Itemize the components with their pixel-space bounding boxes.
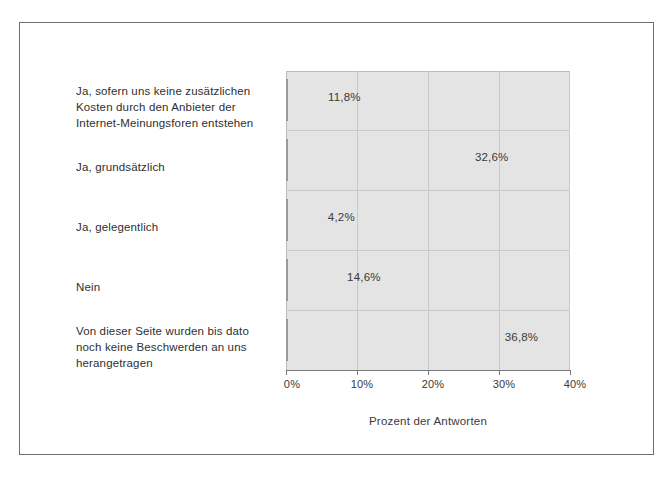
category-label-line: Internet-Meinungsforen entstehen [76,115,286,131]
band-separator [286,190,570,191]
bar-value-label: 14,6% [347,271,381,283]
x-axis-title: Prozent der Antworten [286,415,570,427]
category-label-line: noch keine Beschwerden an uns [76,339,286,355]
category-label-column: Ja, sofern uns keine zusätzlichen Kosten… [74,71,286,370]
category-label-5: Von dieser Seite wurden bis dato noch ke… [76,323,286,371]
category-label-line: Ja, sofern uns keine zusätzlichen [76,83,286,99]
category-label-4: Nein [76,279,286,295]
category-label-line: Ja, grundsätzlich [76,159,286,175]
category-label-line: Nein [76,279,286,295]
bar [286,199,288,241]
bar-value-label: 4,2% [328,211,355,223]
band-separator [286,130,570,131]
x-tick-label-0: 0% [284,378,300,390]
x-tick-30 [499,370,500,375]
x-tick-40 [570,370,571,375]
bar-value-label: 32,6% [475,151,509,163]
bar-row-4: 14,6% [286,259,390,301]
x-tick-20 [428,370,429,375]
chart-canvas: 11,8% 32,6% 4,2% 14,6% 36,8% [0,0,671,480]
band-separator [286,310,570,311]
category-label-2: Ja, grundsätzlich [76,159,286,175]
gridline-40 [569,71,570,370]
category-label-line: Kosten durch den Anbieter der [76,99,286,115]
bar-row-1: 11,8% [286,79,370,121]
category-label-line: Von dieser Seite wurden bis dato [76,323,286,339]
x-tick-0 [286,370,287,375]
category-label-1: Ja, sofern uns keine zusätzlichen Kosten… [76,83,286,131]
category-label-line: herangetragen [76,355,286,371]
bar-value-label: 36,8% [505,331,539,343]
x-tick-label-10: 10% [351,378,374,390]
bar [286,319,288,361]
bar [286,79,288,121]
category-label-line: Ja, gelegentlich [76,219,286,235]
category-label-3: Ja, gelegentlich [76,219,286,235]
bar-row-2: 32,6% [286,139,518,181]
x-tick-10 [357,370,358,375]
plot-area: 11,8% 32,6% 4,2% 14,6% 36,8% [286,71,570,370]
x-tick-label-40: 40% [564,378,587,390]
band-separator [286,250,570,251]
x-tick-label-20: 20% [422,378,445,390]
horizontal-bar-chart: 11,8% 32,6% 4,2% 14,6% 36,8% [0,0,671,480]
bar-row-3: 4,2% [286,199,316,241]
bar [286,139,288,181]
bar-row-5: 36,8% [286,319,547,361]
bar [286,259,288,301]
x-tick-label-30: 30% [493,378,516,390]
bar-value-label: 11,8% [328,91,361,103]
